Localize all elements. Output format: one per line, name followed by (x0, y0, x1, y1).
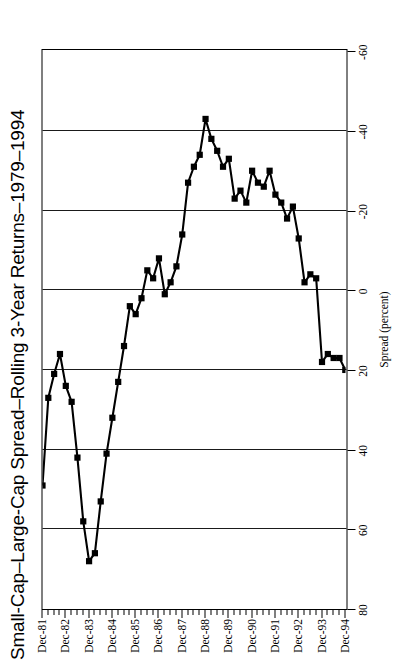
page-title: Small-Cap–Large-Cap Spread–Rolling 3-Yea… (6, 110, 28, 660)
time-axis-tick-36 (251, 610, 252, 618)
time-axis-tick-38 (262, 610, 263, 615)
time-axis-label-Dec-85: Dec-85 (128, 619, 140, 653)
time-axis-tick-30 (216, 610, 217, 615)
x-axis: Spread (percent) 806040200-20-40-60 (347, 49, 407, 610)
time-axis-tick-10 (99, 610, 100, 615)
value-axis-tick-80 (347, 609, 355, 610)
data-point-marker (103, 451, 109, 457)
time-axis-label-Dec-90: Dec-90 (245, 619, 257, 653)
series-line (42, 119, 345, 561)
data-point-marker (254, 180, 260, 186)
data-point-marker (109, 415, 115, 421)
time-axis-label-Dec-93: Dec-93 (315, 619, 327, 653)
value-axis-label-60: 60 (356, 525, 368, 537)
data-point-marker (51, 371, 57, 377)
value-axis-label--60: -60 (356, 45, 368, 60)
time-axis-tick-34 (239, 610, 240, 615)
data-point-marker (62, 383, 68, 389)
time-axis-tick-17 (140, 610, 141, 615)
time-axis-tick-50 (332, 610, 333, 615)
time-axis-label-Dec-83: Dec-83 (82, 619, 94, 653)
time-axis-label-Dec-86: Dec-86 (151, 619, 163, 653)
time-axis-tick-11 (105, 610, 106, 615)
time-axis-label-Dec-89: Dec-89 (221, 619, 233, 653)
time-axis-tick-22 (169, 610, 170, 615)
value-axis-label--40: -40 (356, 124, 368, 139)
data-point-marker (68, 399, 74, 405)
data-point-marker (138, 295, 144, 301)
data-point-marker (243, 200, 249, 206)
data-point-marker (295, 235, 301, 241)
time-axis-tick-42 (286, 610, 287, 615)
time-axis-tick-31 (222, 610, 223, 615)
data-point-marker (190, 164, 196, 170)
time-axis-tick-32 (227, 610, 228, 618)
data-point-marker (161, 291, 167, 297)
time-axis-tick-8 (88, 610, 89, 618)
data-point-marker (208, 136, 214, 142)
time-axis-label-Dec-91: Dec-91 (268, 619, 280, 653)
time-axis-label-Dec-94: Dec-94 (338, 619, 350, 653)
data-point-marker (56, 351, 62, 357)
data-point-marker (278, 200, 284, 206)
data-point-marker (202, 116, 208, 122)
value-axis-label-20: 20 (356, 365, 368, 377)
time-axis-tick-37 (256, 610, 257, 615)
data-point-marker (318, 359, 324, 365)
data-point-marker (272, 192, 278, 198)
data-point-marker (313, 275, 319, 281)
time-axis-tick-46 (309, 610, 310, 615)
time-axis-tick-2 (53, 610, 54, 615)
data-point-marker (132, 311, 138, 317)
time-axis-tick-3 (58, 610, 59, 615)
time-axis-tick-16 (134, 610, 135, 618)
data-point-marker (231, 196, 237, 202)
time-axis-tick-41 (280, 610, 281, 615)
time-axis-tick-23 (175, 610, 176, 615)
value-axis-label-40: 40 (356, 445, 368, 457)
time-axis-tick-24 (181, 610, 182, 618)
data-point-marker (80, 518, 86, 524)
time-axis-tick-15 (128, 610, 129, 615)
value-axis-tick--60 (347, 51, 355, 52)
time-axis-tick-48 (321, 610, 322, 618)
time-axis-label-Dec-92: Dec-92 (291, 619, 303, 653)
time-axis-tick-18 (146, 610, 147, 615)
value-axis-tick-40 (347, 450, 355, 451)
time-axis-tick-7 (82, 610, 83, 615)
data-point-marker (155, 255, 161, 261)
time-axis-tick-19 (152, 610, 153, 615)
time-axis-label-Dec-81: Dec-81 (35, 619, 47, 653)
time-axis-tick-47 (315, 610, 316, 615)
data-point-marker (45, 395, 51, 401)
time-axis-tick-25 (187, 610, 188, 615)
value-axis-label-80: 80 (356, 604, 368, 616)
data-point-marker (184, 180, 190, 186)
value-axis-tick-60 (347, 529, 355, 530)
y-axis: Dec-81Dec-82Dec-83Dec-84Dec-85Dec-86Dec-… (41, 610, 347, 668)
time-axis-tick-5 (70, 610, 71, 615)
data-point-marker (249, 168, 255, 174)
data-point-marker (120, 343, 126, 349)
time-axis-tick-40 (274, 610, 275, 618)
data-point-marker (237, 188, 243, 194)
chart-page: Small-Cap–Large-Cap Spread–Rolling 3-Yea… (0, 0, 417, 668)
data-point-marker (42, 482, 45, 488)
data-point-marker (324, 351, 330, 357)
plot-area (41, 49, 347, 610)
data-point-marker (260, 184, 266, 190)
data-point-marker (196, 152, 202, 158)
time-axis-tick-1 (47, 610, 48, 615)
data-point-marker (91, 550, 97, 556)
data-point-marker (173, 263, 179, 269)
value-axis-label-0: 0 (356, 288, 368, 294)
line-series (42, 51, 345, 609)
time-axis-tick-26 (192, 610, 193, 615)
time-axis-tick-51 (338, 610, 339, 615)
time-axis-tick-21 (163, 610, 164, 615)
data-series-layer (42, 50, 346, 609)
data-point-marker (330, 355, 336, 361)
data-point-marker (225, 156, 231, 162)
time-axis-tick-4 (64, 610, 65, 618)
time-axis-tick-44 (297, 610, 298, 618)
